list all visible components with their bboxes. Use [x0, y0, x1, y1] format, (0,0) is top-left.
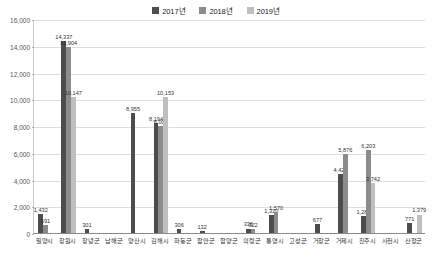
- bar-밀양시-2019년[interactable]: [48, 20, 53, 233]
- bar-김해시-2019년[interactable]: 10,153: [163, 20, 168, 233]
- y-axis-tick-label: 12,000: [10, 70, 30, 77]
- chart-legend: 2017년2018년2019년: [0, 2, 432, 18]
- x-axis-tick-label-고성군: 고성군: [287, 236, 310, 245]
- x-axis-tick-label-양산시: 양산시: [125, 236, 148, 245]
- bar-함안군-2019년[interactable]: [209, 20, 214, 233]
- x-axis-tick-label-사천시: 사천시: [379, 236, 402, 245]
- bar-group-함양군: [223, 20, 237, 233]
- legend-entry-2018년[interactable]: 2018년: [199, 5, 232, 16]
- y-axis-tick-label: 6,000: [14, 150, 30, 157]
- x-axis-tick-label-김해시: 김해시: [148, 236, 171, 245]
- bar-거창군-2019년[interactable]: [325, 20, 330, 233]
- x-axis-tick-label-함안군: 함안군: [194, 236, 217, 245]
- x-axis-tick-label-하동군: 하동군: [171, 236, 194, 245]
- plot-area: 02,0004,0006,0008,00010,00012,00014,0001…: [33, 20, 425, 234]
- bar-거제시-2019년[interactable]: [348, 20, 353, 233]
- bar-group-함안군: 132: [200, 20, 214, 233]
- bar-group-거제시: 4,4285,876: [338, 20, 352, 233]
- bar-group-창원시: 14,33713,90410,147: [61, 20, 75, 233]
- bar-창원시-2019년[interactable]: 10,147: [71, 20, 76, 233]
- bar-의령군-2019년[interactable]: [255, 20, 260, 233]
- bar-진주시-2019년[interactable]: 3,742: [371, 20, 376, 233]
- bars-layer: 1,43259114,33713,90410,1473018,9558,1948…: [34, 20, 425, 233]
- x-axis-tick-label-통영시: 통영시: [264, 236, 287, 245]
- bar-group-의령군: 336322: [246, 20, 260, 233]
- bar-group-고성군: [292, 20, 306, 233]
- y-axis-tick-label: 0: [26, 231, 30, 238]
- legend-label: 2019년: [257, 5, 280, 16]
- bar-group-김해시: 8,1948,00810,153: [154, 20, 168, 233]
- x-axis-tick-label-의령군: 의령군: [241, 236, 264, 245]
- bar-group-밀양시: 1,432591: [38, 20, 52, 233]
- y-axis-tick-label: 2,000: [14, 204, 30, 211]
- bar-함양군-2019년[interactable]: [232, 20, 237, 233]
- x-axis-tick-label-함양군: 함양군: [217, 236, 240, 245]
- y-axis-tick-label: 16,000: [10, 17, 30, 24]
- bar-양산시-2019년[interactable]: [140, 20, 145, 233]
- bar-group-양산시: 8,955: [131, 20, 145, 233]
- y-axis-tick-label: 4,000: [14, 177, 30, 184]
- y-axis-tick-mark: [32, 234, 34, 235]
- bar-group-사천시: [384, 20, 398, 233]
- legend-label: 2018년: [209, 5, 232, 16]
- x-axis-labels: 밀양시창원시창녕군남해군양산시김해시하동군함안군함양군의령군통영시고성군거창군거…: [33, 236, 425, 250]
- legend-swatch-icon: [152, 7, 159, 14]
- x-axis-tick-label-밀양시: 밀양시: [33, 236, 56, 245]
- legend-swatch-icon: [199, 7, 206, 14]
- x-axis-tick-label-거창군: 거창군: [310, 236, 333, 245]
- bar-남해군-2019년[interactable]: [117, 20, 122, 233]
- x-axis-tick-label-진주시: 진주시: [356, 236, 379, 245]
- bar-value-label: 3,742: [366, 177, 380, 183]
- bar-하동군-2019년[interactable]: [186, 20, 191, 233]
- bar-rect: [371, 183, 376, 233]
- bar-group-통영시: 1,3201,570: [269, 20, 283, 233]
- y-axis-tick-label: 8,000: [14, 124, 30, 131]
- bar-group-남해군: [108, 20, 122, 233]
- bar-창녕군-2019년[interactable]: [94, 20, 99, 233]
- legend-swatch-icon: [247, 7, 254, 14]
- bar-group-하동군: 306: [177, 20, 191, 233]
- bar-value-label: 10,147: [65, 91, 82, 97]
- bar-group-창녕군: 301: [84, 20, 98, 233]
- x-axis-tick-label-창녕군: 창녕군: [79, 236, 102, 245]
- y-axis-tick-label: 14,000: [10, 43, 30, 50]
- bar-산청군-2019년[interactable]: 1,379: [417, 20, 422, 233]
- x-axis-tick-label-창원시: 창원시: [56, 236, 79, 245]
- bar-통영시-2019년[interactable]: [278, 20, 283, 233]
- bar-사천시-2019년[interactable]: [394, 20, 399, 233]
- bar-rect: [71, 97, 76, 233]
- x-axis-tick-label-산청군: 산청군: [402, 236, 425, 245]
- bar-rect: [163, 97, 168, 233]
- bar-group-거창군: 677: [315, 20, 329, 233]
- legend-entry-2019년[interactable]: 2019년: [247, 5, 280, 16]
- legend-label: 2017년: [162, 5, 185, 16]
- x-axis-tick-label-남해군: 남해군: [102, 236, 125, 245]
- bar-chart: 2017년2018년2019년 02,0004,0006,0008,00010,…: [0, 0, 432, 260]
- x-axis-tick-label-거제시: 거제시: [333, 236, 356, 245]
- legend-entry-2017년[interactable]: 2017년: [152, 5, 185, 16]
- bar-value-label: 1,379: [412, 208, 426, 214]
- bar-rect: [417, 215, 422, 233]
- bar-group-산청군: 7711,379: [407, 20, 421, 233]
- bar-group-진주시: 1,2866,2033,742: [361, 20, 375, 233]
- bar-value-label: 10,153: [157, 91, 174, 97]
- bar-고성군-2019년[interactable]: [302, 20, 307, 233]
- y-axis-tick-label: 10,000: [10, 97, 30, 104]
